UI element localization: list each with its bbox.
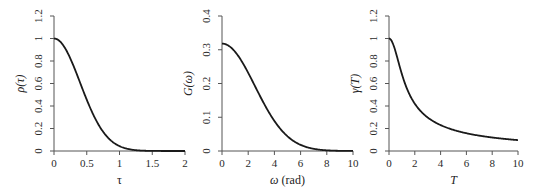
y-axis-label: ρ(τ) (13, 74, 27, 93)
x-tick-label: 2 (412, 157, 418, 169)
x-axis-label: τ (117, 173, 122, 187)
y-tick-label: 0.4 (367, 99, 379, 113)
y-tick-label: 0.2 (32, 122, 44, 136)
x-tick-label: 8 (489, 157, 495, 169)
y-tick-label: 0 (32, 148, 44, 154)
y-tick-label: 0.6 (32, 76, 44, 90)
y-tick-label: 0 (200, 148, 212, 154)
y-tick-label: 1.2 (32, 9, 44, 23)
y-tick-label: 0.8 (32, 54, 44, 68)
x-tick-label: 0 (219, 157, 225, 169)
y-tick-label: 0.2 (367, 122, 379, 136)
x-tick-label: 6 (298, 157, 304, 169)
x-tick-label: 8 (324, 157, 330, 169)
x-tick-label: 1 (117, 157, 123, 169)
y-tick-label: 0.6 (367, 76, 379, 90)
figure: 00.511.5200.20.40.60.811.2τρ(τ)024681000… (0, 0, 536, 194)
x-tick-label: 2 (182, 157, 188, 169)
y-tick-label: 0 (367, 148, 379, 154)
x-tick-label: 0 (51, 157, 57, 169)
x-tick-label: 10 (348, 157, 360, 169)
y-tick-label: 0.2 (200, 77, 212, 91)
y-tick-label: 0.4 (200, 9, 212, 23)
x-tick-label: 6 (464, 157, 470, 169)
y-tick-label: 0.8 (367, 54, 379, 68)
y-tick-label: 1 (367, 36, 379, 42)
y-axis-label: γ(T) (348, 74, 362, 93)
x-tick-label: 1.5 (145, 157, 159, 169)
x-axis-label: T (450, 173, 458, 187)
x-tick-label: 4 (272, 157, 278, 169)
y-tick-label: 0.1 (200, 110, 212, 124)
x-tick-label: 0.5 (80, 157, 94, 169)
chart-spectral-density: 024681000.10.20.30.4ω (rad)G(ω) (181, 9, 359, 187)
x-tick-label: 4 (438, 157, 444, 169)
y-tick-label: 0.3 (200, 42, 212, 56)
chart-autocorrelation: 00.511.5200.20.40.60.811.2τρ(τ) (13, 9, 188, 187)
data-curve (389, 39, 518, 141)
data-curve (54, 39, 185, 152)
y-tick-label: 1 (32, 36, 44, 42)
y-tick-label: 1.2 (367, 9, 379, 23)
chart-variance-function: 024681000.20.40.60.811.2Tγ(T) (348, 9, 524, 187)
x-axis-label: ω (rad) (270, 173, 305, 187)
y-tick-label: 0.4 (32, 99, 44, 113)
x-tick-label: 10 (513, 157, 525, 169)
data-curve (222, 44, 353, 151)
x-tick-label: 0 (386, 157, 392, 169)
y-axis-label: G(ω) (181, 71, 195, 96)
x-tick-label: 2 (245, 157, 251, 169)
